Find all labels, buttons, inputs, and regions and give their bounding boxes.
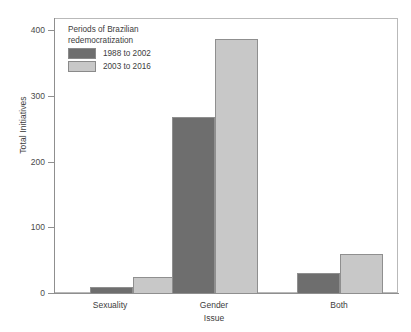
- bar-sexuality-2003-to-2016: [133, 277, 176, 294]
- legend-label-2003-2016: 2003 to 2016: [103, 61, 151, 72]
- legend-swatch-icon-dark: [68, 48, 96, 59]
- x-tick-label-gender: Gender: [154, 300, 274, 310]
- bar-both-2003-to-2016: [340, 254, 383, 294]
- legend-label-1988-2002: 1988 to 2002: [103, 48, 151, 59]
- x-tick-label-both: Both: [279, 300, 399, 310]
- y-axis-line: [54, 18, 55, 294]
- x-tick-label-sexuality: Sexuality: [50, 300, 170, 310]
- bar-chart-figure: Total Initiatives 0 100 200 300 400 Sexu…: [0, 0, 411, 332]
- legend-swatch-icon-light: [68, 61, 96, 72]
- y-tick-label-200: 200: [15, 158, 45, 167]
- y-axis-title: Total Initiatives: [18, 65, 28, 185]
- y-tick-label-400: 400: [15, 26, 45, 35]
- y-tick-label-0: 0: [15, 289, 45, 298]
- legend-title-line-1: Periods of Brazilian: [68, 24, 151, 35]
- bar-both-1988-to-2002: [297, 273, 340, 294]
- x-axis-title: Issue: [154, 313, 274, 323]
- legend-title-line-2: redemocratization: [68, 35, 151, 46]
- y-tick-label-100: 100: [15, 223, 45, 232]
- legend: Periods of Brazilian redemocratization 1…: [68, 24, 151, 72]
- bar-gender-2003-to-2016: [215, 39, 258, 294]
- x-axis-line: [54, 293, 399, 294]
- bar-gender-1988-to-2002: [172, 117, 215, 294]
- y-tick-label-300: 300: [15, 92, 45, 101]
- legend-item-2003-2016: 2003 to 2016: [68, 61, 151, 72]
- legend-item-1988-2002: 1988 to 2002: [68, 48, 151, 59]
